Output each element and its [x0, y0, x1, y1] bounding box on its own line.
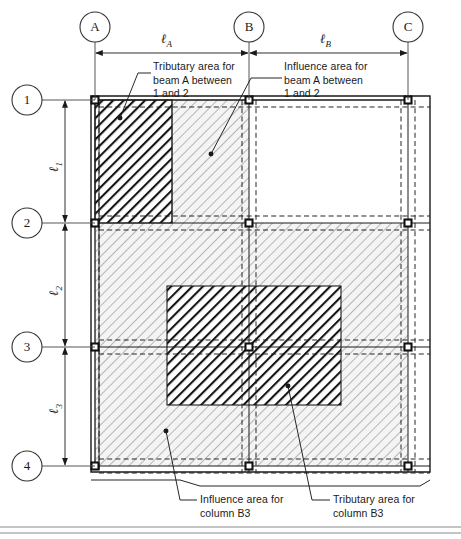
- dim-l1-sub: 1: [54, 162, 64, 167]
- dim-lB-sub: B: [325, 39, 331, 49]
- slab-bottom-edge: [91, 480, 430, 486]
- tributary-area-beam-a-fill: [95, 100, 172, 223]
- annotation-tributary-beam: Tributary area for beam A between 1 and …: [153, 60, 235, 101]
- dimension-label-lA: ℓA: [161, 31, 172, 49]
- grid-label-A: A: [82, 19, 108, 35]
- annotation-influence-beam: Influence area for beam A between 1 and …: [284, 60, 368, 101]
- annotation-influence-column: Influence area for column B3: [200, 493, 284, 520]
- dim-l1-symbol: ℓ: [46, 167, 61, 172]
- dim-l2-symbol: ℓ: [46, 291, 61, 296]
- grid-label-2: 2: [14, 215, 40, 231]
- grid-label-1: 1: [14, 92, 40, 108]
- grid-label-3: 3: [14, 339, 40, 355]
- tributary-area-column-b3-fill: [167, 286, 341, 405]
- dim-l2-sub: 2: [54, 286, 64, 291]
- dim-l3-sub: 3: [54, 404, 64, 409]
- dimension-label-l1: ℓ1: [46, 162, 64, 172]
- annotation-tributary-column: Tributary area for column B3: [333, 493, 415, 520]
- dimension-label-l3: ℓ3: [46, 404, 64, 414]
- dimension-label-lB: ℓB: [320, 31, 331, 49]
- grid-label-4: 4: [14, 458, 40, 474]
- grid-label-C: C: [395, 19, 421, 35]
- grid-label-B: B: [236, 19, 262, 35]
- dim-lA-sub: A: [166, 39, 172, 49]
- dimension-label-l2: ℓ2: [46, 286, 64, 296]
- dim-l3-symbol: ℓ: [46, 409, 61, 414]
- figure-canvas: A B C 1 2 3 4 ℓA ℓB ℓ1 ℓ2 ℓ3 Tributary a…: [0, 0, 461, 539]
